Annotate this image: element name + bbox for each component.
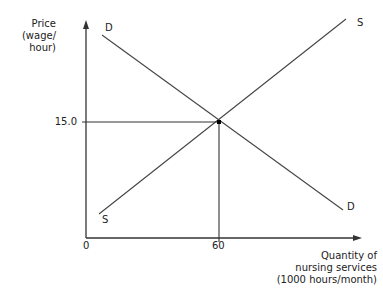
x-axis-label-line-3: (1000 hours/month) (250, 274, 377, 286)
price-tick-label: 15.0 (40, 116, 77, 128)
y-axis-label-line-2: (wage/ (14, 30, 56, 42)
demand-label-start: D (105, 22, 113, 34)
y-axis-arrow-icon (83, 20, 89, 29)
x-axis-label-line-1: Quantity of (250, 250, 377, 262)
y-axis-label: Price (wage/ hour) (14, 18, 56, 54)
y-axis-label-line-1: Price (14, 18, 56, 30)
x-axis-label: Quantity of nursing services (1000 hours… (250, 250, 377, 286)
origin-label: 0 (83, 240, 89, 252)
x-axis-arrow-icon (353, 235, 362, 241)
x-axis-label-line-2: nursing services (250, 262, 377, 274)
y-axis-label-line-3: hour) (14, 42, 56, 54)
quantity-tick-label: 60 (212, 240, 225, 252)
demand-label-end: D (347, 201, 355, 213)
supply-label-start: S (102, 214, 108, 226)
equilibrium-point (217, 120, 221, 124)
supply-label-end: S (357, 17, 363, 29)
